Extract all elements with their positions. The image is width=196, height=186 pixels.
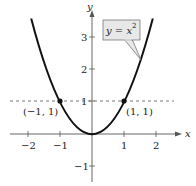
equation-label: y = x: [105, 25, 132, 36]
y-tick-label: 1: [81, 96, 87, 107]
equation-callout: y = x 2: [103, 20, 141, 60]
y-tick-label: −1: [74, 161, 89, 172]
point-label: (1, 1): [126, 106, 153, 117]
point-1-1: [121, 98, 126, 103]
y-tick-label: 3: [81, 32, 87, 43]
x-axis-label: x: [185, 128, 191, 139]
x-axis-arrow-icon: [175, 132, 182, 137]
y-axis-label: y: [86, 1, 93, 12]
parabola-chart: x y −2 −1 1 2 −1 1 2 3: [0, 0, 196, 186]
point-neg1-1: [57, 98, 62, 103]
chart-canvas: x y −2 −1 1 2 −1 1 2 3: [0, 0, 196, 186]
y-tick-label: 2: [81, 64, 87, 75]
x-tick-label: 2: [153, 140, 159, 151]
x-tick-label: 1: [121, 140, 127, 151]
point-label: (−1, 1): [23, 106, 58, 117]
equation-exponent: 2: [132, 22, 136, 30]
x-tick-label: −2: [21, 140, 36, 151]
x-tick-label: −1: [53, 140, 68, 151]
